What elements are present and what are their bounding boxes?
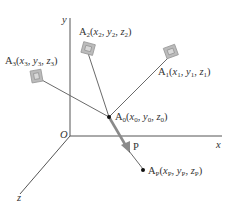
y-axis-label: y bbox=[62, 15, 67, 26]
anchor-a1-icon bbox=[163, 44, 178, 58]
point-ap bbox=[141, 168, 145, 172]
force-label: P bbox=[133, 142, 139, 153]
point-a0 bbox=[107, 115, 111, 119]
label-a3: A3(x3, y3, z3) bbox=[5, 56, 58, 68]
label-a0: A0(x0, y0, z0) bbox=[115, 112, 168, 124]
label-a1: A1(x1, y1, z1) bbox=[158, 67, 211, 79]
label-a2: A2(x2, y2, z2) bbox=[79, 27, 132, 39]
x-axis-label: x bbox=[216, 140, 221, 151]
origin-label: O bbox=[60, 130, 68, 141]
cable-a0-a1 bbox=[109, 55, 171, 117]
line-to-ap bbox=[129, 151, 143, 169]
z-axis bbox=[20, 136, 70, 194]
z-axis-label: z bbox=[17, 193, 21, 204]
anchor-a2-icon bbox=[81, 42, 95, 56]
anchor-a3-icon bbox=[30, 69, 43, 83]
label-ap: AP(xP, yP, zP) bbox=[148, 166, 202, 178]
